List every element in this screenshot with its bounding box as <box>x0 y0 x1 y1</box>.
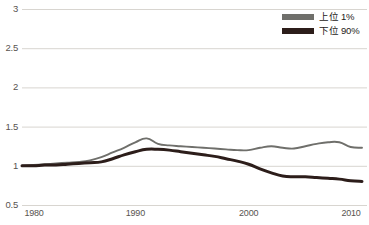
chart-container: 0.511.522.53 上位 1% 下位 90% 19801990200020… <box>0 0 369 225</box>
series-lines-group <box>22 138 362 181</box>
x-tick-label: 2010 <box>341 209 360 218</box>
x-tick-label: 1980 <box>24 209 43 218</box>
y-tick-label: 1 <box>13 161 18 171</box>
legend-label-top1: 上位 1% <box>319 12 354 22</box>
y-tick-label: 1.5 <box>5 122 18 132</box>
x-tick-label: 1990 <box>126 209 145 218</box>
legend-item-top1[interactable]: 上位 1% <box>282 10 364 23</box>
y-tick-label: 3 <box>13 4 18 14</box>
y-tick-label: 2 <box>13 82 18 92</box>
series-line-bottom90 <box>22 149 362 181</box>
legend-swatch-top1 <box>282 14 314 20</box>
legend-label-bottom90: 下位 90% <box>319 26 359 36</box>
chart-legend: 上位 1% 下位 90% <box>280 8 366 41</box>
y-tick-label: 0.5 <box>5 200 18 210</box>
legend-swatch-bottom90 <box>282 28 314 34</box>
y-tick-label: 2.5 <box>5 43 18 53</box>
legend-item-bottom90[interactable]: 下位 90% <box>282 24 364 37</box>
x-tick-label: 2000 <box>239 209 258 218</box>
y-axis-tick-labels: 0.511.522.53 <box>0 0 18 225</box>
